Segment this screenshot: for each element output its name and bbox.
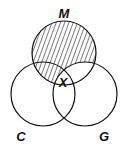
label-x: X [58, 75, 69, 90]
label-m: M [59, 6, 71, 21]
label-c: C [16, 129, 26, 144]
venn-diagram: M C G X [0, 0, 127, 149]
label-g: G [99, 129, 109, 144]
